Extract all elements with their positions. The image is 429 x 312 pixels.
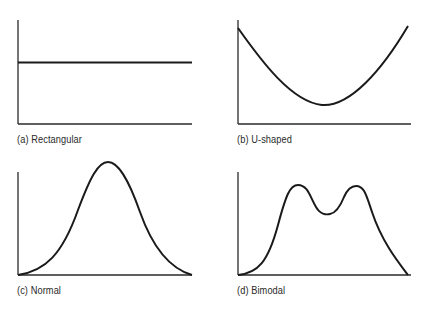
panel-label-u-shaped: (b) U-shaped [237,133,292,145]
panel-u-shaped [238,20,411,124]
panel-normal [18,162,192,275]
panel-bimodal [238,172,411,275]
panel-label-bimodal: (d) Bimodal [237,284,285,296]
panel-label-rectangular: (a) Rectangular [17,133,82,145]
u-shaped-curve [238,26,408,105]
bimodal-curve [238,185,408,275]
panel-rectangular [18,20,192,124]
panel-label-normal: (c) Normal [17,284,61,296]
normal-curve [18,162,192,275]
distribution-shapes-figure [0,0,429,312]
